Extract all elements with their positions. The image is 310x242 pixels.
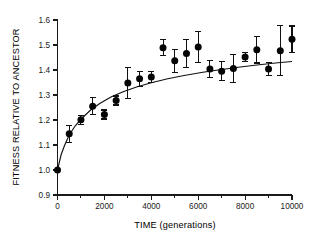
data-point — [242, 54, 249, 61]
data-point — [277, 47, 284, 54]
figure-container: 0.91.01.11.21.31.41.51.6 020004000600080… — [0, 0, 310, 242]
data-point — [230, 65, 237, 72]
data-point — [148, 74, 155, 81]
fitness-trajectory-chart: 0.91.01.11.21.31.41.51.6 020004000600080… — [0, 0, 310, 242]
data-point — [160, 44, 167, 51]
data-point — [253, 46, 260, 53]
data-point — [113, 97, 120, 104]
data-point — [218, 68, 225, 75]
y-tick-label: 1.5 — [39, 41, 51, 50]
y-tick-label: 1.1 — [39, 141, 51, 150]
y-tick-label: 1.3 — [39, 91, 51, 100]
y-tick-label: 1.2 — [39, 116, 51, 125]
x-tick-label: 2000 — [95, 202, 114, 211]
x-tick-label: 6000 — [189, 202, 208, 211]
x-tick-label: 10000 — [281, 202, 304, 211]
data-point — [66, 130, 73, 137]
x-axis-title: TIME (generations) — [134, 220, 215, 230]
y-tick-label: 1.6 — [39, 16, 51, 25]
data-point — [183, 50, 190, 57]
data-point — [265, 66, 272, 73]
data-point — [89, 103, 96, 110]
data-point — [171, 57, 178, 64]
data-point — [206, 66, 213, 73]
y-tick-label: 0.9 — [39, 191, 51, 200]
y-tick-label: 1.0 — [39, 166, 51, 175]
y-axis-title: FITNESS RELATIVE TO ANCESTOR — [11, 28, 21, 185]
data-point — [124, 80, 131, 87]
data-point — [289, 36, 296, 43]
data-point — [101, 111, 108, 118]
data-point — [54, 167, 61, 174]
x-tick-label: 0 — [55, 202, 60, 211]
data-point — [77, 116, 84, 123]
data-point — [195, 44, 202, 51]
x-tick-label: 8000 — [236, 202, 255, 211]
data-point — [136, 75, 143, 82]
x-tick-label: 4000 — [142, 202, 161, 211]
y-tick-label: 1.4 — [39, 66, 51, 75]
